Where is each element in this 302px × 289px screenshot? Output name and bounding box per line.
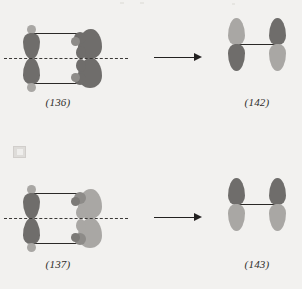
arrow-shaft: [154, 217, 195, 218]
bond-top: [31, 33, 78, 34]
structure-142: (142): [215, 0, 302, 120]
orbital-lobe-right-bottom-light: [269, 204, 286, 231]
arrow-head: [194, 53, 202, 61]
diagram-canvas: (136) (142): [0, 0, 302, 289]
orbital-lobe-left-top-dark: [228, 178, 245, 205]
structure-136: (136): [0, 0, 140, 120]
structure-label-137: (137): [38, 258, 78, 270]
orbital-cap-upper-right: [71, 37, 80, 46]
orbital-cap-lower-left: [27, 243, 36, 252]
orbital-lobe-right-top-dark: [269, 18, 286, 45]
orbital-lobe-left-bottom-dark: [228, 44, 245, 71]
arrow-shaft: [154, 57, 195, 58]
orbital-lobe-left-bottom-light: [228, 204, 245, 231]
structure-143: (143): [215, 145, 302, 265]
transformation-arrow-top: [154, 52, 202, 64]
orbital-lobe-upper-left-dark: [23, 33, 40, 59]
transformation-arrow-bottom: [154, 212, 202, 224]
orbital-lobe-upper-left-dark: [23, 193, 40, 219]
reaction-row-top: (136) (142): [0, 0, 302, 144]
orbital-lobe-right-bottom-light: [269, 44, 286, 71]
bond-top: [31, 193, 78, 194]
orbital-cap-lower-right: [71, 233, 80, 242]
orbital-lobe-lower-left-dark: [23, 218, 40, 244]
reaction-row-bottom: (137) (143): [0, 145, 302, 289]
arrow-head: [194, 213, 202, 221]
mirror-axis: [4, 218, 128, 219]
bond-bottom: [31, 243, 78, 244]
structure-label-143: (143): [237, 258, 277, 270]
structure-137: (137): [0, 145, 140, 265]
orbital-cap-upper-right: [71, 197, 80, 206]
orbital-lobe-lower-left-dark: [23, 58, 40, 84]
orbital-lobe-left-top-light: [228, 18, 245, 45]
bond-bottom: [31, 83, 78, 84]
structure-label-136: (136): [38, 96, 78, 108]
twisted-neck: [76, 59, 86, 72]
orbital-cap-lower-left: [27, 83, 36, 92]
orbital-lobe-right-top-dark: [269, 178, 286, 205]
orbital-cap-lower-right: [71, 73, 80, 82]
structure-label-142: (142): [237, 96, 277, 108]
twisted-neck: [76, 219, 86, 232]
mirror-axis: [4, 58, 128, 59]
